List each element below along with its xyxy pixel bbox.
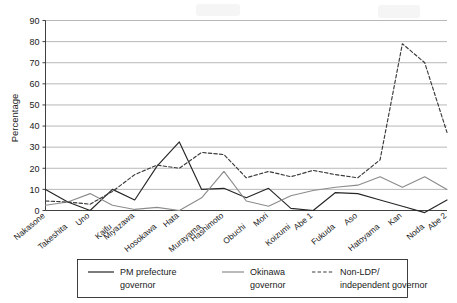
legend-label-0-line2: governor xyxy=(120,280,156,290)
y-axis-title: Percentage xyxy=(9,94,20,143)
y-tick-label-40: 40 xyxy=(29,121,39,131)
x-label-aso: Aso xyxy=(342,210,360,227)
legend-label-2-line2: independent governor xyxy=(340,280,428,290)
legend-container xyxy=(78,260,408,298)
y-tick-label-30: 30 xyxy=(29,142,39,152)
legend-label-1-line1: Okinawa xyxy=(250,267,285,277)
x-label-abe-2: Abe 2 xyxy=(425,210,448,232)
y-axis-tick-labels: 0102030405060708090 xyxy=(29,16,39,216)
y-tick-label-20: 20 xyxy=(29,164,39,174)
line-chart: 0102030405060708090 Percentage NakasoneT… xyxy=(0,0,457,303)
x-label-fukuda: Fukuda xyxy=(309,221,337,247)
y-tick-label-10: 10 xyxy=(29,185,39,195)
legend-label-2-line1: Non-LDP/ xyxy=(340,267,380,277)
legend-label-0-line1: PM prefecture xyxy=(120,267,177,277)
x-label-abe-1: Abe 1 xyxy=(291,210,314,232)
x-label-hatoyama: Hatoyama xyxy=(346,221,382,253)
y-tick-label-90: 90 xyxy=(29,16,39,26)
x-label-kan: Kan xyxy=(386,210,404,227)
y-tick-label-70: 70 xyxy=(29,58,39,68)
chart-figure: 0102030405060708090 Percentage NakasoneT… xyxy=(0,0,457,303)
x-label-mori: Mori xyxy=(251,210,270,228)
x-axis-category-labels: NakasoneTakeshitaUnoKaifuMiyazawaHosokaw… xyxy=(12,210,449,254)
legend-label-1-line2: governor xyxy=(250,280,286,290)
y-tick-label-60: 60 xyxy=(29,79,39,89)
x-label-koizumi: Koizumi xyxy=(263,221,292,248)
grid-lines xyxy=(46,21,448,190)
x-label-noda: Noda xyxy=(404,221,426,242)
data-series-group xyxy=(46,44,448,213)
x-label-hosokawa: Hosokawa xyxy=(122,221,158,254)
y-tick-label-50: 50 xyxy=(29,100,39,110)
x-label-takeshita: Takeshita xyxy=(36,221,70,251)
x-label-uno: Uno xyxy=(73,210,91,228)
x-label-hata: Hata xyxy=(161,210,181,229)
x-label-nakasone: Nakasone xyxy=(12,210,47,242)
y-tick-label-80: 80 xyxy=(29,37,39,47)
x-label-obuchi: Obuchi xyxy=(221,221,248,246)
